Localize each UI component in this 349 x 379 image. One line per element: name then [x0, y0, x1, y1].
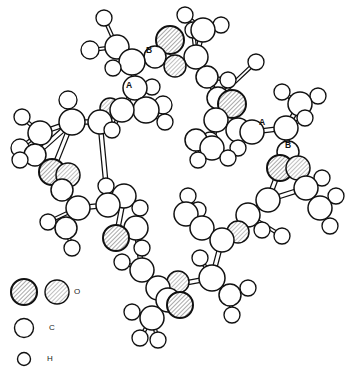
atom-h	[59, 91, 77, 109]
atom-c	[184, 45, 208, 69]
bond-label-a-right: A	[259, 118, 265, 127]
atom-c	[196, 66, 218, 88]
atom-h	[190, 152, 206, 168]
bond-label-b-top: B	[146, 46, 152, 55]
atom-c	[199, 265, 225, 291]
atom-h	[12, 152, 28, 168]
atom-h	[157, 114, 173, 130]
atom-h	[248, 54, 264, 70]
atom-h	[220, 72, 236, 88]
atom-c	[28, 121, 52, 145]
atom-h	[254, 222, 270, 238]
atom-h	[132, 330, 148, 346]
atom-c	[308, 196, 332, 220]
atom-o	[103, 225, 129, 251]
atom-h	[322, 218, 338, 234]
atom-c	[140, 306, 164, 330]
legend-oxygen-swatch-2	[45, 280, 69, 304]
bond-label-b-right: B	[285, 141, 291, 150]
atom-c	[51, 179, 73, 201]
atom-c	[55, 217, 77, 239]
atom-h	[134, 240, 150, 256]
atom-c	[191, 18, 215, 42]
atom-c	[256, 188, 280, 212]
atom-c	[133, 97, 159, 123]
atom-h	[124, 304, 140, 320]
atom-c	[274, 116, 298, 140]
atom-c	[119, 49, 145, 75]
atom-h	[104, 122, 120, 138]
atom-h	[40, 214, 56, 230]
atom-c	[59, 109, 85, 135]
molecular-diagram-canvas: B A A B O C H	[0, 0, 349, 379]
atom-o	[167, 292, 193, 318]
atom-h	[224, 307, 240, 323]
atom-c	[204, 108, 228, 132]
atom-c	[66, 196, 90, 220]
atom-h	[64, 240, 80, 256]
atom-c	[210, 228, 234, 252]
legend	[0, 268, 120, 379]
bond-label-a-top: A	[126, 81, 132, 90]
atom-h	[132, 200, 148, 216]
atom-h	[297, 110, 313, 126]
atom-h	[105, 60, 121, 76]
atom-c	[219, 284, 241, 306]
atom-h	[96, 10, 112, 26]
legend-hydrogen-swatch	[18, 353, 31, 366]
atom-h	[14, 109, 30, 125]
atom-c	[96, 193, 120, 217]
atom-h	[177, 7, 193, 23]
atom-h	[192, 250, 208, 266]
legend-carbon-swatch	[15, 319, 34, 338]
legend-oxygen-swatch-1	[11, 279, 37, 305]
atom-c	[294, 176, 318, 200]
atom-h	[274, 228, 290, 244]
atom-h	[240, 280, 256, 296]
legend-label-oxygen: O	[74, 288, 80, 296]
atom-h	[274, 84, 290, 100]
legend-label-hydrogen: H	[47, 355, 53, 363]
atom-h	[81, 41, 99, 59]
atom-h	[98, 178, 114, 194]
atom-h	[150, 332, 166, 348]
atom-o	[164, 55, 186, 77]
atom-h	[220, 150, 236, 166]
legend-label-carbon: C	[49, 324, 55, 332]
atom-c	[110, 98, 134, 122]
